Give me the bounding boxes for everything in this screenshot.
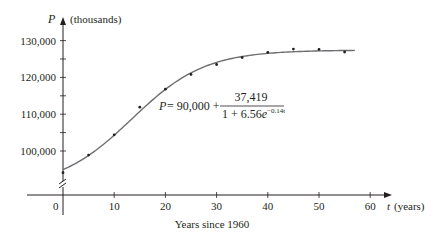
data-point	[241, 56, 244, 59]
origin-label: 0	[53, 200, 59, 212]
x-axis-unit: (years)	[394, 200, 425, 213]
data-point	[164, 88, 167, 91]
data-point	[343, 51, 346, 54]
model-equation: P = 90,000 + 37,419 1 + 6.56e−0.14t	[158, 90, 285, 121]
y-axis-arrow-icon	[60, 17, 66, 25]
data-point	[87, 154, 90, 157]
data-point	[318, 48, 321, 51]
x-tick-label: 40	[262, 200, 274, 212]
equation-lhs: P	[158, 99, 167, 113]
data-point	[292, 48, 295, 51]
x-axis-variable: t	[387, 200, 391, 212]
y-axis-unit: (thousands)	[70, 13, 122, 26]
y-tick-label: 110,000	[21, 108, 57, 120]
equation-mid: = 90,000 +	[167, 99, 220, 113]
x-tick-label: 20	[160, 200, 172, 212]
data-point	[190, 73, 193, 76]
x-axis-caption: Years since 1960	[175, 218, 250, 230]
y-ticks: 100,000110,000120,000130,000	[20, 35, 66, 157]
equation-numerator: 37,419	[235, 90, 268, 104]
x-tick-label: 60	[365, 200, 377, 212]
logistic-population-chart: 102030405060 100,000110,000120,000130,00…	[0, 0, 444, 237]
data-point	[215, 63, 218, 66]
x-tick-label: 50	[314, 200, 326, 212]
y-tick-label: 120,000	[20, 71, 56, 83]
y-tick-label: 100,000	[20, 145, 56, 157]
y-axis-variable: P	[47, 12, 56, 26]
x-tick-label: 30	[211, 200, 223, 212]
equation-denominator: 1 + 6.56e−0.14t	[222, 107, 285, 121]
data-point	[62, 171, 65, 174]
data-point	[113, 133, 116, 136]
x-axis-arrow-icon	[384, 192, 392, 198]
data-point	[138, 106, 141, 109]
y-tick-label: 130,000	[20, 35, 56, 47]
x-tick-label: 10	[109, 200, 121, 212]
data-point	[266, 51, 269, 54]
